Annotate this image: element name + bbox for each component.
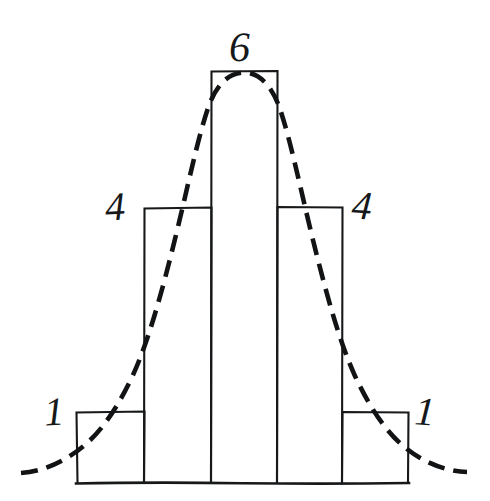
bar-value-label-2: 4: [104, 187, 126, 228]
bar-value-label-1: 1: [43, 392, 65, 433]
histogram-bar-5: [342, 412, 409, 483]
bar-value-label-5: 1: [414, 391, 437, 432]
bar-value-label-4: 4: [351, 185, 374, 226]
histogram-bar-1: [77, 412, 145, 484]
histogram-bar-3: [211, 71, 278, 483]
histogram-bar-4: [277, 207, 343, 483]
histogram-bar-2: [144, 208, 212, 484]
baseline-axis: [76, 483, 409, 484]
histogram-figure: 1 4 6 4 1: [0, 0, 490, 501]
bar-value-label-3: 6: [229, 26, 251, 68]
